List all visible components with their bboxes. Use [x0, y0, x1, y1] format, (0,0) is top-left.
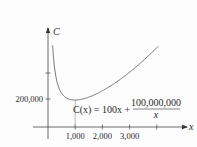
x-tick-label: 1,000	[66, 131, 85, 141]
formula-annotation: C(x) = 100x + 100,000,000 x	[73, 97, 181, 120]
x-tick-label: 3,000	[120, 131, 139, 141]
formula-numerator: 100,000,000	[131, 97, 181, 108]
cost-chart: C x 1,0002,0003,000200,000 C(x) = 100x +…	[0, 0, 197, 147]
x-tick-label: 2,000	[93, 131, 112, 141]
x-axis-label: x	[188, 121, 194, 132]
y-tick-label: 200,000	[15, 94, 43, 104]
y-axis-label: C	[53, 26, 60, 37]
formula-denominator: x	[153, 109, 159, 120]
cost-curve	[53, 45, 159, 100]
formula-lhs: C(x) = 100x +	[73, 104, 130, 116]
